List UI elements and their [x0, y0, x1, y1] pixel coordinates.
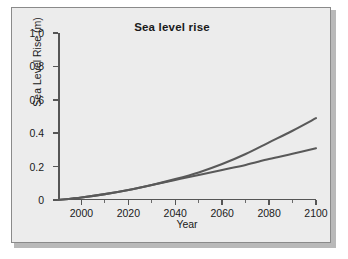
- y-tick-label: 1.0: [29, 27, 44, 39]
- x-tick-minor: [104, 200, 105, 203]
- x-tick-label: 2080: [257, 207, 280, 219]
- x-tick-label: 2040: [164, 207, 187, 219]
- x-tick: [128, 200, 130, 205]
- x-tick-minor: [198, 200, 199, 203]
- y-tick-label: 0: [38, 194, 44, 206]
- figure-canvas: Sea level rise Sea Level Rise (m) Year 0…: [0, 0, 348, 259]
- x-tick-minor: [151, 200, 152, 203]
- y-tick-label: 0.2: [29, 161, 44, 173]
- y-tick-label: 0.6: [29, 94, 44, 106]
- x-tick-label: 2020: [117, 207, 140, 219]
- x-tick: [221, 200, 223, 205]
- x-tick-minor: [292, 200, 293, 203]
- x-tick-label: 2100: [304, 207, 327, 219]
- plot-area: 00.20.40.60.81.0 20002020204020602080210…: [58, 33, 316, 200]
- series-line-lower: [58, 118, 316, 200]
- x-tick: [268, 200, 270, 205]
- x-tick-label: 2000: [70, 207, 93, 219]
- chart-title: Sea level rise: [12, 21, 332, 33]
- x-axis-label: Year: [58, 218, 316, 230]
- x-tick-label: 2060: [210, 207, 233, 219]
- series-line-upper: [58, 148, 316, 200]
- chart-frame: Sea level rise Sea Level Rise (m) Year 0…: [11, 7, 331, 243]
- x-tick: [81, 200, 83, 205]
- x-tick: [315, 200, 317, 205]
- x-tick: [175, 200, 177, 205]
- x-tick-minor: [245, 200, 246, 203]
- data-curves: [58, 33, 316, 200]
- y-tick-label: 0.4: [29, 127, 44, 139]
- y-tick-label: 0.8: [29, 60, 44, 72]
